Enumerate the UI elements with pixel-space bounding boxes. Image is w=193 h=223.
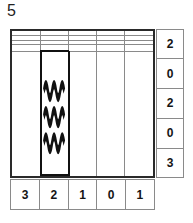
row-clue-row: 2 [157, 89, 183, 119]
row-clue-cell: 2 [157, 89, 183, 119]
row-clue-cell: 0 [157, 118, 183, 148]
puzzle-grid [10, 29, 155, 178]
row-clue-row: 0 [157, 118, 183, 148]
row-clue-cell: 2 [157, 30, 183, 59]
grid-cell[interactable] [13, 45, 41, 52]
grid-cell[interactable] [125, 45, 153, 52]
puzzle-number-label: 5 [7, 2, 16, 20]
column-clue-line: 3 2 1 0 1 [11, 180, 154, 209]
row-clue-column: 2 0 2 0 3 [156, 29, 184, 178]
column-clue-cell: 0 [97, 180, 126, 209]
grid-row [13, 51, 153, 175]
grid-cell[interactable] [41, 45, 69, 52]
row-clue-cell: 0 [157, 59, 183, 89]
row-clue-row: 0 [157, 59, 183, 89]
grid-row [13, 45, 153, 52]
column-clue-cell: 3 [11, 180, 40, 209]
row-clue-cell: 3 [157, 148, 183, 177]
column-clue-table: 3 2 1 0 1 [11, 180, 154, 209]
column-clue-cell: 2 [40, 180, 69, 209]
puzzle-grid-table [12, 31, 153, 176]
grid-cell[interactable] [69, 51, 97, 175]
grid-cell[interactable] [69, 45, 97, 52]
column-clue-cell: 1 [125, 180, 154, 209]
puzzle-container: 5 [0, 0, 193, 223]
row-clue-table: 2 0 2 0 3 [157, 30, 183, 177]
grid-cell[interactable] [13, 51, 41, 175]
grid-cell[interactable] [97, 45, 125, 52]
column-clue-body: 3 2 1 0 1 [11, 180, 154, 209]
row-clue-body: 2 0 2 0 3 [157, 30, 183, 177]
puzzle-grid-body [13, 32, 153, 176]
water-waves-icon [42, 52, 68, 174]
column-clue-cell: 1 [68, 180, 97, 209]
row-clue-row: 2 [157, 30, 183, 59]
row-clue-row: 3 [157, 148, 183, 177]
column-clue-row: 3 2 1 0 1 [10, 179, 155, 210]
grid-cell[interactable] [125, 51, 153, 175]
water-cell[interactable] [41, 51, 69, 175]
grid-cell[interactable] [97, 51, 125, 175]
